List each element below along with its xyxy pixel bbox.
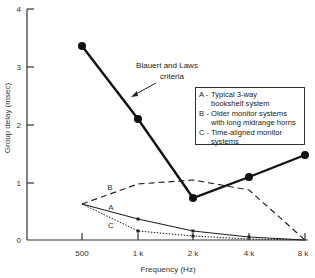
y-tick-label: 0 — [17, 236, 22, 245]
legend-item-c: C - Time-aligned monitor systems — [199, 128, 301, 147]
legend-text: systems — [211, 137, 239, 146]
x-axis-title: Frequency (Hz) — [140, 265, 195, 274]
legend-item-b: B - Older monitor systems with long midr… — [199, 109, 301, 128]
legend-text: Older monitor systems — [211, 109, 287, 118]
curve-label-c: C — [108, 221, 114, 230]
legend-key: B - — [199, 109, 211, 128]
x-tick-label: 2 k — [188, 249, 200, 258]
legend-text: Time-aligned monitor — [211, 128, 282, 137]
x-tick-label: 1 k — [133, 249, 145, 258]
y-tick-label: 2 — [17, 121, 22, 130]
x-tick-label: 500 — [75, 249, 89, 258]
annotation-arrow-icon — [131, 83, 156, 97]
legend-text: Typical 3-way — [211, 90, 257, 99]
curve-label-b: B — [107, 183, 112, 192]
legend-text: with long midrange horns — [211, 118, 296, 127]
x-tick-label: 8 k — [298, 249, 310, 258]
x-tick-label: 4 k — [244, 249, 256, 258]
legend-box: A - Typical 3-way bookshelf system B - O… — [195, 87, 305, 145]
annotation-text: criteria — [160, 72, 185, 81]
legend-key: C - — [199, 128, 211, 147]
y-axis — [27, 9, 34, 240]
y-tick-label: 4 — [17, 5, 22, 14]
legend-text: bookshelf system — [211, 99, 270, 108]
legend-key: A - — [199, 90, 211, 109]
y-tick-label: 3 — [17, 63, 22, 72]
legend-item-a: A - Typical 3-way bookshelf system — [199, 90, 301, 109]
y-axis-title: Group delay (msec) — [3, 83, 12, 154]
annotation-text: Blauert and Laws — [136, 61, 198, 70]
y-tick-label: 1 — [17, 179, 22, 188]
curve-label-a: A — [108, 203, 114, 212]
